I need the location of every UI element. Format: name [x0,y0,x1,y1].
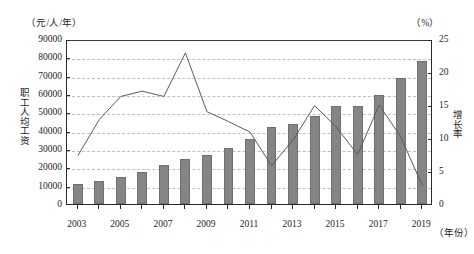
right-tick-mark [428,106,432,107]
left-tick-mark [66,40,70,41]
right-tick-label: 10 [439,133,469,143]
x-tick-mark [421,205,422,209]
x-tick-mark [292,205,293,209]
left-tick-label: 50000 [18,107,62,117]
left-tick-mark [66,77,70,78]
x-tick-mark [120,205,121,209]
x-tick-label: 2003 [57,219,97,229]
x-tick-label: 2017 [358,219,398,229]
left-tick-label: 70000 [18,71,62,81]
right-tick-mark [428,73,432,74]
right-tick-mark [428,40,432,41]
left-tick-mark [66,58,70,59]
x-tick-mark [249,205,250,209]
left-tick-label: 60000 [18,89,62,99]
x-tick-mark [271,205,272,209]
plot-area [66,40,432,205]
x-tick-label: 2013 [272,219,312,229]
left-tick-mark [66,113,70,114]
left-tick-mark [66,95,70,96]
left-tick-mark [66,187,70,188]
right-tick-label: 20 [439,67,469,77]
right-tick-mark [428,139,432,140]
left-tick-mark [66,132,70,133]
x-tick-mark [227,205,228,209]
right-tick-label: 5 [439,166,469,176]
x-tick-mark [378,205,379,209]
left-tick-label: 20000 [18,162,62,172]
left-axis-unit-label: （元/人/年） [26,15,83,29]
x-tick-label: 2005 [100,219,140,229]
x-tick-mark [335,205,336,209]
right-axis-unit-label: （%） [411,15,440,29]
right-tick-label: 25 [439,34,469,44]
left-tick-label: 40000 [18,126,62,136]
left-tick-label: 30000 [18,144,62,154]
x-tick-label: 2009 [186,219,226,229]
left-tick-mark [66,168,70,169]
left-tick-label: 80000 [18,52,62,62]
line-series [67,41,433,206]
right-tick-label: 0 [439,199,469,209]
x-tick-mark [141,205,142,209]
right-tick-label: 15 [439,100,469,110]
x-tick-mark [77,205,78,209]
left-tick-label: 10000 [18,181,62,191]
x-tick-mark [400,205,401,209]
left-tick-mark [66,150,70,151]
x-tick-mark [184,205,185,209]
x-axis-caption: （年份） [434,225,474,239]
x-tick-mark [314,205,315,209]
x-tick-label: 2007 [143,219,183,229]
left-tick-label: 90000 [18,34,62,44]
right-tick-mark [428,172,432,173]
left-tick-label: 0 [18,199,62,209]
x-tick-label: 2011 [229,219,269,229]
x-tick-mark [206,205,207,209]
chart-figure: （元/人/年） （%） 职工人均工资 增长率 01000020000300004… [0,0,474,254]
x-tick-mark [163,205,164,209]
x-tick-mark [357,205,358,209]
x-tick-label: 2015 [315,219,355,229]
x-tick-mark [98,205,99,209]
